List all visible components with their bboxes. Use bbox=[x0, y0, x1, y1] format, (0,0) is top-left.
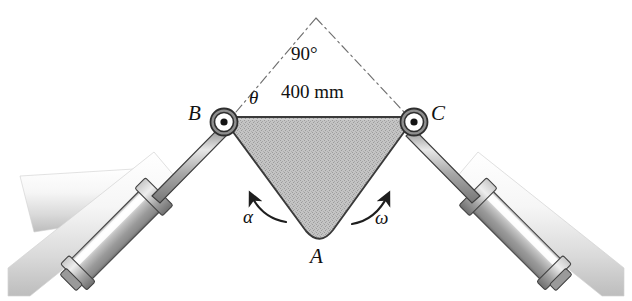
label-vertex-b: B bbox=[188, 103, 201, 124]
figure-canvas: B C A θ α ω 90° 400 mm bbox=[0, 0, 632, 301]
label-vertex-c: C bbox=[431, 103, 445, 124]
label-theta: θ bbox=[249, 88, 258, 107]
label-top-dimension: 400 mm bbox=[281, 82, 344, 101]
label-vertex-a: A bbox=[310, 246, 323, 267]
label-apex-angle: 90° bbox=[291, 44, 318, 63]
pin-joint-c bbox=[401, 109, 428, 136]
label-alpha: α bbox=[243, 207, 253, 226]
pin-joint-b bbox=[211, 109, 238, 136]
alpha-arrow bbox=[251, 195, 286, 222]
label-omega: ω bbox=[375, 208, 388, 227]
